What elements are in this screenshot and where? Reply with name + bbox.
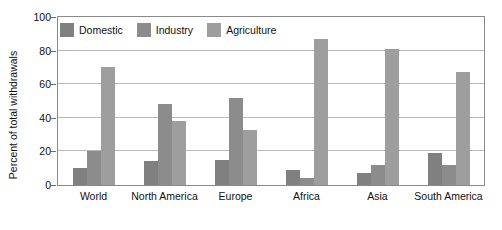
bar-group: [129, 17, 200, 185]
y-tick-mark: [51, 84, 56, 85]
bar[interactable]: [442, 165, 456, 185]
bar[interactable]: [243, 130, 257, 185]
bars-layer: [58, 17, 484, 185]
bar-group: [58, 17, 129, 185]
bar-group: [342, 17, 413, 185]
bar[interactable]: [385, 49, 399, 185]
legend-swatch-icon: [137, 23, 151, 37]
x-tick-label: World: [80, 190, 107, 202]
x-tick-label: Europe: [219, 190, 253, 202]
bar-chart: Percent of total withdrawals 02040608010…: [0, 0, 502, 230]
bar[interactable]: [456, 72, 470, 185]
legend-swatch-icon: [207, 23, 221, 37]
bar[interactable]: [172, 121, 186, 185]
x-tick-label: Africa: [293, 190, 320, 202]
y-axis-ticks: 020406080100: [22, 16, 51, 186]
chart-legend: DomesticIndustryAgriculture: [60, 23, 276, 37]
bar[interactable]: [73, 168, 87, 185]
bar[interactable]: [357, 173, 371, 185]
y-tick-label: 100: [25, 11, 51, 23]
bar[interactable]: [229, 98, 243, 185]
legend-swatch-icon: [60, 23, 74, 37]
legend-label: Industry: [156, 24, 193, 36]
y-tick-mark: [51, 51, 56, 52]
x-axis-labels: WorldNorth AmericaEuropeAfricaAsiaSouth …: [58, 190, 484, 206]
legend-item[interactable]: Domestic: [60, 23, 123, 37]
bar[interactable]: [87, 151, 101, 185]
y-tick-label: 0: [25, 179, 51, 191]
bar-group: [413, 17, 484, 185]
bar-group: [271, 17, 342, 185]
y-tick-mark: [51, 118, 56, 119]
bar[interactable]: [286, 170, 300, 185]
bar[interactable]: [215, 160, 229, 185]
bar[interactable]: [371, 165, 385, 185]
bar-group: [200, 17, 271, 185]
x-tick-label: South America: [414, 190, 482, 202]
bar[interactable]: [428, 153, 442, 185]
y-axis-title: Percent of total withdrawals: [4, 0, 22, 230]
y-tick-label: 60: [25, 78, 51, 90]
y-tick-mark: [51, 17, 56, 18]
y-tick-label: 80: [25, 45, 51, 57]
y-tick-label: 20: [25, 145, 51, 157]
bar[interactable]: [300, 178, 314, 185]
bar[interactable]: [144, 161, 158, 185]
bar[interactable]: [101, 67, 115, 185]
legend-label: Agriculture: [226, 24, 276, 36]
x-tick-label: Asia: [367, 190, 387, 202]
y-tick-mark: [51, 151, 56, 152]
bar[interactable]: [314, 39, 328, 185]
x-tick-label: North America: [131, 190, 198, 202]
legend-label: Domestic: [79, 24, 123, 36]
y-tick-label: 40: [25, 112, 51, 124]
legend-item[interactable]: Industry: [137, 23, 193, 37]
bar[interactable]: [158, 104, 172, 185]
y-tick-mark: [51, 185, 56, 186]
legend-item[interactable]: Agriculture: [207, 23, 276, 37]
